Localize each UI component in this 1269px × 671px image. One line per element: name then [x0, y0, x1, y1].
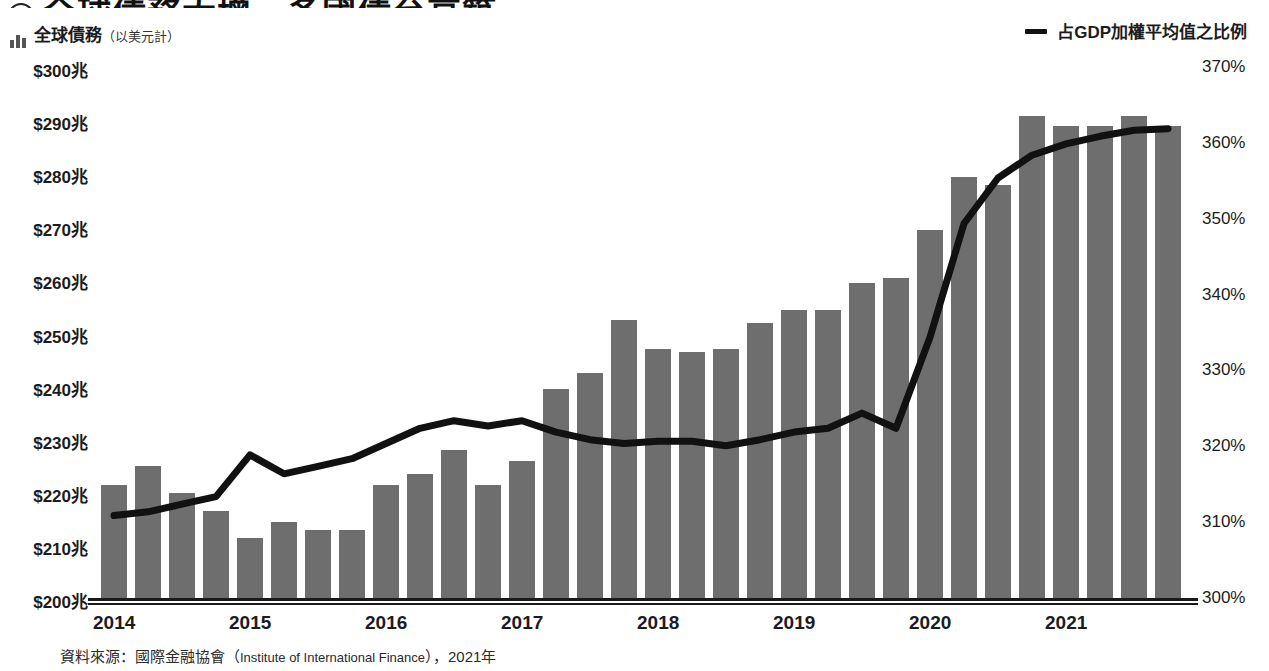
x-axis-tick: 2019: [773, 612, 815, 634]
trend-line: [114, 129, 1168, 516]
x-axis-tick: 2018: [637, 612, 679, 634]
line-series: [0, 0, 1269, 671]
source-suffix: ），2021年: [425, 648, 496, 665]
source-prefix: 資料來源：國際金融協會（: [60, 648, 240, 665]
x-axis-tick: 2014: [93, 612, 135, 634]
x-axis-tick: 2021: [1045, 612, 1087, 634]
x-axis-tick: 2017: [501, 612, 543, 634]
x-axis-line: [88, 598, 1198, 601]
x-axis-tick: 2020: [909, 612, 951, 634]
x-axis-line-secondary: [88, 603, 1198, 605]
x-axis-tick: 2015: [229, 612, 271, 634]
source-note: 資料來源：國際金融協會（Institute of International F…: [60, 645, 496, 666]
source-english: Institute of International Finance: [240, 650, 425, 665]
chart-page: 全球債務大增，多國債台高築 全球債務（以美元計） 占GDP加權平均值之比例 $2…: [0, 0, 1269, 671]
x-axis-tick: 2016: [365, 612, 407, 634]
